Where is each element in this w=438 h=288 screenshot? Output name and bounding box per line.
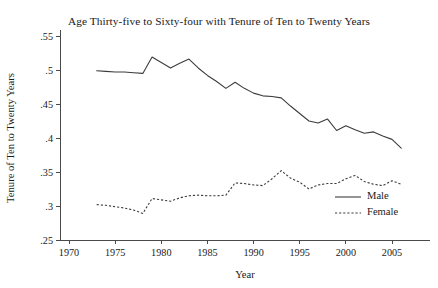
x-tick-label: 1995	[290, 247, 310, 258]
series-line-female	[97, 171, 402, 214]
chart-figure: Age Thirty-five to Sixty-four with Tenur…	[0, 0, 438, 288]
y-tick-label: .55	[40, 31, 53, 42]
y-tick-label: .3	[45, 201, 53, 212]
line-chart-plot: .25.3.35.4.45.5.551970197519801985199019…	[0, 0, 438, 288]
legend-label-female: Female	[367, 206, 398, 217]
x-tick-label: 1985	[197, 247, 217, 258]
y-tick-label: .4	[45, 133, 53, 144]
x-tick-label: 2000	[336, 247, 356, 258]
y-tick-label: .45	[40, 99, 53, 110]
y-tick-label: .5	[45, 65, 53, 76]
series-line-male	[97, 57, 402, 148]
x-axis-title: Year	[235, 269, 255, 280]
x-tick-label: 1975	[105, 247, 125, 258]
x-tick-label: 1970	[59, 247, 79, 258]
legend-label-male: Male	[367, 190, 389, 201]
x-tick-label: 2005	[382, 247, 402, 258]
x-tick-label: 1980	[151, 247, 171, 258]
y-tick-label: .35	[40, 167, 53, 178]
y-axis-title: Tenure of Ten to Twenty Years	[5, 73, 16, 203]
y-tick-label: .25	[40, 235, 53, 246]
x-tick-label: 1990	[243, 247, 263, 258]
